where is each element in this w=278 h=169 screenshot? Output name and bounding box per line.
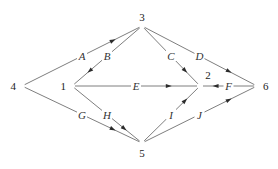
edge-label-F: F: [224, 80, 234, 92]
arrowhead-icon: [109, 126, 115, 130]
node-4: 4: [11, 80, 17, 92]
arrowhead-icon: [225, 99, 231, 103]
arrowhead-icon: [225, 68, 231, 73]
network-diagram: ABCDEFGHIJ 123456: [0, 0, 278, 169]
edge-label-A: A: [77, 50, 87, 62]
node-1: 1: [61, 80, 67, 92]
svg-text:B: B: [104, 50, 111, 62]
node-2: 2: [205, 69, 211, 81]
svg-text:C: C: [167, 50, 175, 62]
svg-text:E: E: [132, 80, 140, 92]
edge-label-H: H: [102, 109, 112, 121]
edge-label-I: I: [166, 109, 176, 121]
edge-label-D: D: [195, 50, 205, 62]
arrowhead-icon: [166, 84, 172, 88]
svg-text:A: A: [78, 50, 86, 62]
node-5: 5: [139, 147, 145, 159]
svg-text:G: G: [78, 109, 86, 121]
edge-label-J: J: [195, 109, 205, 121]
arrowhead-icon: [109, 39, 115, 43]
edge-label-E: E: [131, 80, 141, 92]
svg-text:H: H: [102, 109, 112, 121]
arrowhead-icon: [213, 84, 219, 88]
edge-label-G: G: [77, 109, 87, 121]
svg-text:D: D: [195, 50, 204, 62]
edge-labels-layer: ABCDEFGHIJ: [77, 50, 234, 121]
node-3: 3: [139, 11, 145, 23]
edge-label-C: C: [166, 50, 176, 62]
node-6: 6: [263, 80, 269, 92]
svg-text:F: F: [224, 80, 232, 92]
edge-label-B: B: [102, 50, 112, 62]
